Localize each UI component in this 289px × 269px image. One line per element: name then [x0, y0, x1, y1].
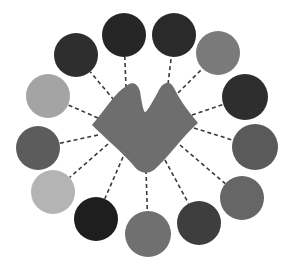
connector-line — [125, 57, 126, 88]
connector-line — [70, 144, 108, 178]
hub-spoke-diagram — [0, 0, 289, 269]
connector-line — [90, 72, 114, 100]
satellite-node-11 — [31, 170, 75, 214]
satellite-node-3 — [152, 13, 196, 57]
satellite-node-9 — [125, 211, 171, 257]
satellite-node-13 — [26, 74, 70, 118]
satellite-node-5 — [222, 74, 268, 120]
diagram-canvas — [0, 0, 289, 269]
satellite-node-12 — [16, 126, 60, 170]
connector-line — [168, 57, 171, 84]
connector-line — [180, 145, 225, 184]
connector-line — [165, 160, 189, 204]
satellite-node-2 — [102, 13, 146, 57]
satellite-node-1 — [54, 33, 98, 77]
central-hub-shape — [92, 83, 198, 173]
satellite-node-8 — [177, 201, 221, 245]
connector-line — [178, 69, 202, 93]
connector-line — [146, 170, 147, 211]
connector-line — [68, 105, 98, 118]
satellite-node-7 — [220, 176, 264, 220]
satellite-node-4 — [196, 31, 240, 75]
connector-line — [192, 104, 223, 115]
connector-line — [105, 157, 123, 199]
connector-line — [194, 128, 233, 140]
satellite-node-10 — [74, 197, 118, 241]
satellite-node-6 — [232, 124, 278, 170]
connector-line — [60, 135, 99, 143]
